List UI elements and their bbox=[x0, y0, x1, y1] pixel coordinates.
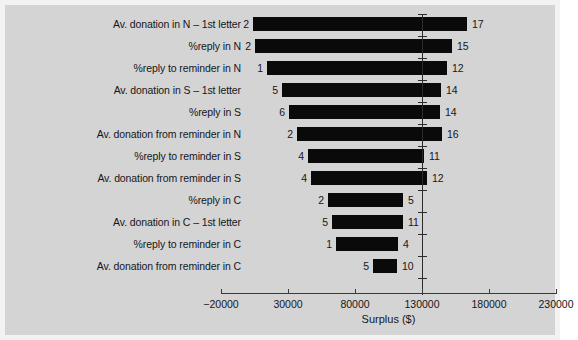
baseline-tick bbox=[418, 58, 427, 59]
x-axis-tick-label: 230000 bbox=[516, 298, 578, 310]
sensitivity-bar bbox=[328, 193, 403, 207]
low-value-label: 5 bbox=[351, 255, 369, 277]
category-label: %reply in S bbox=[5, 101, 241, 123]
sensitivity-bar bbox=[289, 105, 440, 119]
category-label: %reply to reminder in C bbox=[5, 233, 241, 255]
low-value-label: 4 bbox=[286, 145, 304, 167]
high-value-label: 17 bbox=[472, 13, 484, 35]
low-value-label: 2 bbox=[275, 123, 293, 145]
x-axis-tick bbox=[288, 289, 289, 294]
x-axis-tick bbox=[556, 289, 557, 294]
tornado-row: Av. donation in C – 1st letter511 bbox=[5, 211, 565, 233]
high-value-label: 16 bbox=[447, 123, 459, 145]
low-value-label: 1 bbox=[314, 233, 332, 255]
high-value-label: 4 bbox=[403, 233, 409, 255]
high-value-label: 5 bbox=[408, 189, 414, 211]
baseline-tick bbox=[418, 36, 427, 37]
category-label: Av. donation from reminder in C bbox=[5, 255, 241, 277]
category-label: Av. donation from reminder in N bbox=[5, 123, 241, 145]
tornado-row: %reply in C25 bbox=[5, 189, 565, 211]
category-label: Av. donation in N – 1st letter bbox=[5, 13, 241, 35]
category-label: %reply to reminder in S bbox=[5, 145, 241, 167]
x-axis-tick bbox=[221, 289, 222, 294]
baseline-tick bbox=[418, 146, 427, 147]
sensitivity-bar bbox=[297, 127, 442, 141]
tornado-row: Av. donation from reminder in S412 bbox=[5, 167, 565, 189]
tornado-row: %reply to reminder in S411 bbox=[5, 145, 565, 167]
tornado-row: %reply in N215 bbox=[5, 35, 565, 57]
low-value-label: 2 bbox=[306, 189, 324, 211]
category-label: %reply in N bbox=[5, 35, 241, 57]
sensitivity-bar bbox=[308, 149, 424, 163]
high-value-label: 11 bbox=[429, 145, 440, 167]
category-label: %reply to reminder in N bbox=[5, 57, 241, 79]
baseline-center-line bbox=[422, 15, 423, 295]
baseline-tick bbox=[418, 256, 427, 257]
category-label: Av. donation in C – 1st letter bbox=[5, 211, 241, 233]
sensitivity-bar bbox=[253, 17, 467, 31]
sensitivity-bar bbox=[373, 259, 397, 273]
sensitivity-bar bbox=[311, 171, 427, 185]
tornado-row: Av. donation from reminder in N216 bbox=[5, 123, 565, 145]
tornado-row: Av. donation from reminder in C510 bbox=[5, 255, 565, 277]
baseline-tick bbox=[418, 212, 427, 213]
baseline-tick bbox=[418, 234, 427, 235]
baseline-tick bbox=[418, 168, 427, 169]
high-value-label: 12 bbox=[432, 167, 444, 189]
low-value-label: 5 bbox=[310, 211, 328, 233]
x-axis-line bbox=[221, 293, 556, 294]
low-value-label: 1 bbox=[245, 57, 263, 79]
sensitivity-bar bbox=[267, 61, 447, 75]
baseline-tick bbox=[418, 278, 427, 279]
high-value-label: 10 bbox=[402, 255, 414, 277]
tornado-row: %reply to reminder in C14 bbox=[5, 233, 565, 255]
high-value-label: 14 bbox=[446, 79, 458, 101]
baseline-tick bbox=[418, 190, 427, 191]
tornado-row: %reply in S614 bbox=[5, 101, 565, 123]
high-value-label: 12 bbox=[452, 57, 464, 79]
sensitivity-bar bbox=[282, 83, 441, 97]
sensitivity-bar bbox=[336, 237, 398, 251]
tornado-row: Av. donation in N – 1st letter217 bbox=[5, 13, 565, 35]
baseline-tick bbox=[418, 102, 427, 103]
low-value-label: 2 bbox=[231, 13, 249, 35]
tornado-row: Av. donation in S – 1st letter514 bbox=[5, 79, 565, 101]
x-axis-tick bbox=[422, 289, 423, 294]
x-axis-title: Surplus ($) bbox=[109, 313, 578, 325]
tornado-chart: Av. donation in N – 1st letter217%reply … bbox=[5, 5, 565, 340]
category-label: Av. donation in S – 1st letter bbox=[5, 79, 241, 101]
low-value-label: 4 bbox=[289, 167, 307, 189]
low-value-label: 2 bbox=[233, 35, 251, 57]
baseline-tick bbox=[418, 80, 427, 81]
high-value-label: 15 bbox=[457, 35, 469, 57]
high-value-label: 14 bbox=[445, 101, 457, 123]
category-label: %reply in C bbox=[5, 189, 241, 211]
baseline-tick bbox=[418, 124, 427, 125]
tornado-row: %reply to reminder in N112 bbox=[5, 57, 565, 79]
high-value-label: 11 bbox=[408, 211, 419, 233]
low-value-label: 5 bbox=[260, 79, 278, 101]
baseline-tick bbox=[418, 14, 427, 15]
category-label: Av. donation from reminder in S bbox=[5, 167, 241, 189]
x-axis-tick bbox=[355, 289, 356, 294]
x-axis-tick bbox=[489, 289, 490, 294]
low-value-label: 6 bbox=[267, 101, 285, 123]
sensitivity-bar bbox=[332, 215, 403, 229]
